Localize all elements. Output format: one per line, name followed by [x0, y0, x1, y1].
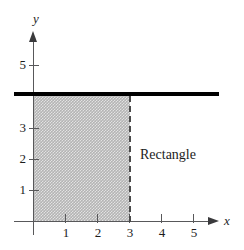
region-right-boundary-dashed-line: [129, 96, 131, 222]
x-tick-label-2: 2: [90, 225, 106, 241]
y-tick-label-2: 2: [10, 151, 26, 167]
y-tick-2: [29, 159, 39, 160]
y-tick-1: [29, 190, 39, 191]
y-tick-3: [29, 128, 39, 129]
x-tick-label-1: 1: [58, 225, 74, 241]
x-tick-label-3: 3: [122, 225, 138, 241]
rectangle-annotation-label: Rectangle: [140, 147, 196, 163]
y-tick-label-1: 1: [10, 182, 26, 198]
x-axis-arrow-icon: [208, 217, 219, 225]
y-axis-label: y: [33, 11, 39, 27]
plot-area: x y 1 2 3 4 5 5 3 2 1 Rectangle: [0, 0, 244, 250]
x-tick-label-4: 4: [154, 225, 170, 241]
y-tick-label-5: 5: [10, 57, 26, 73]
x-axis-line: [14, 221, 210, 222]
x-tick-2: [97, 214, 98, 223]
x-tick-4: [161, 214, 162, 223]
x-tick-5: [193, 214, 194, 223]
x-axis-label: x: [224, 213, 230, 229]
x-tick-label-5: 5: [186, 225, 202, 241]
rectangle-area-figure: x y 1 2 3 4 5 5 3 2 1 Rectangle: [0, 0, 244, 250]
shaded-rectangle-region: [33, 95, 130, 222]
y-axis-arrow-icon: [29, 31, 37, 42]
constant-function-line: [14, 92, 219, 96]
x-tick-1: [65, 214, 66, 223]
y-tick-label-3: 3: [10, 120, 26, 136]
y-tick-5: [29, 65, 39, 66]
